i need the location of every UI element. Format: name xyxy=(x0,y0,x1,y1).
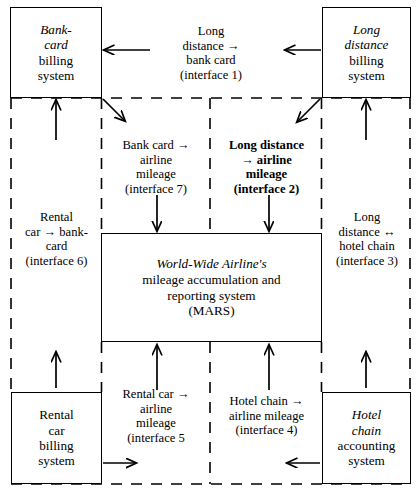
long-distance-line4: system xyxy=(348,68,385,83)
interface-5-line1: Rental car → xyxy=(122,387,189,401)
mars-line3: reporting system xyxy=(167,288,255,303)
interface-2-line2: → airline xyxy=(241,153,292,167)
rental-car-billing-system-box[interactable]: Rental car billing system xyxy=(11,392,102,484)
interface-7-label: Bank card → airline mileage (interface 7… xyxy=(104,138,208,196)
arrow-longdistance-diagonal-out xyxy=(297,99,320,122)
arrow-bankcard-diagonal-out xyxy=(103,99,125,121)
bank-card-line4: system xyxy=(38,68,75,83)
interface-1-label: Long distance → bank card (interface 1) xyxy=(152,24,270,82)
rental-car-line3: billing xyxy=(39,438,73,453)
long-distance-billing-system-box[interactable]: Long distance billing system xyxy=(322,7,411,98)
rental-car-billing-system-label: Rental car billing system xyxy=(35,407,78,468)
context-diagram: Bank- card billing system Long distance … xyxy=(0,0,419,493)
rental-car-line1: Rental xyxy=(39,407,73,422)
rental-car-line2: car xyxy=(48,423,64,438)
hotel-chain-line1: Hotel xyxy=(352,407,381,422)
interface-5-line2: airline xyxy=(140,402,172,416)
interface-5-line3: mileage xyxy=(136,416,176,430)
interface-1-line2: distance → xyxy=(182,39,239,53)
interface-7-line4: (interface 7) xyxy=(125,182,187,196)
interface-6-line2: car → bank- xyxy=(25,225,88,239)
interface-6-label: Rental car → bank- card (interface 6) xyxy=(12,210,101,268)
long-distance-line3: billing xyxy=(349,53,383,68)
bank-card-billing-system-label: Bank- card billing system xyxy=(35,22,78,83)
interface-2-line4: (interface 2) xyxy=(234,182,299,196)
interface-3-line3: hotel chain xyxy=(339,239,395,253)
interface-3-line1: Long xyxy=(354,210,381,224)
interface-4-line2: airline mileage xyxy=(229,409,304,423)
interface-6-line3: card xyxy=(46,239,68,253)
bank-card-line1: Bank- xyxy=(40,22,72,37)
bank-card-line3: billing xyxy=(39,53,73,68)
rental-car-line4: system xyxy=(38,453,75,468)
mars-line2: mileage accumulation and xyxy=(142,272,280,287)
interface-6-line4: (interface 6) xyxy=(26,254,88,268)
hotel-chain-line3: accounting xyxy=(338,438,396,453)
mars-central-system-box[interactable]: World-Wide Airline's mileage accumulatio… xyxy=(101,233,322,342)
interface-2-line3: mileage xyxy=(246,167,287,181)
mars-line1: World-Wide Airline's xyxy=(156,256,266,271)
interface-3-label: Long distance ↔ hotel chain (interface 3… xyxy=(323,210,411,268)
long-distance-line1: Long xyxy=(353,22,380,37)
interface-4-line3: (interface 4) xyxy=(236,423,298,437)
hotel-chain-accounting-system-box[interactable]: Hotel chain accounting system xyxy=(322,392,411,484)
interface-4-line1: Hotel chain → xyxy=(229,394,303,408)
bank-card-billing-system-box[interactable]: Bank- card billing system xyxy=(10,7,102,98)
interface-2-line1: Long distance xyxy=(229,138,304,152)
interface-7-line2: airline xyxy=(140,153,172,167)
interface-1-line4: (interface 1) xyxy=(180,68,242,82)
interface-2-label: Long distance → airline mileage (interfa… xyxy=(213,138,320,196)
interface-5-line4: (interface 5 xyxy=(127,431,185,445)
interface-1-line1: Long xyxy=(198,24,225,38)
long-distance-billing-system-label: Long distance billing system xyxy=(342,22,392,83)
hotel-chain-accounting-system-label: Hotel chain accounting system xyxy=(335,407,399,468)
interface-4-label: Hotel chain → airline mileage (interface… xyxy=(213,394,320,438)
mars-line4: (MARS) xyxy=(188,303,234,318)
interface-7-line3: mileage xyxy=(136,167,176,181)
interface-6-line1: Rental xyxy=(40,210,73,224)
hotel-chain-line4: system xyxy=(348,453,385,468)
mars-central-system-label: World-Wide Airline's mileage accumulatio… xyxy=(139,256,283,319)
interface-1-line3: bank card xyxy=(186,53,235,67)
interface-3-line2: distance ↔ xyxy=(338,225,395,239)
bank-card-line2: card xyxy=(44,37,68,52)
interface-7-line1: Bank card → xyxy=(122,138,189,152)
interface-3-line4: (interface 3) xyxy=(336,254,398,268)
long-distance-line2: distance xyxy=(345,37,389,52)
hotel-chain-line2: chain xyxy=(352,423,381,438)
interface-5-label: Rental car → airline mileage (interface … xyxy=(104,387,208,445)
